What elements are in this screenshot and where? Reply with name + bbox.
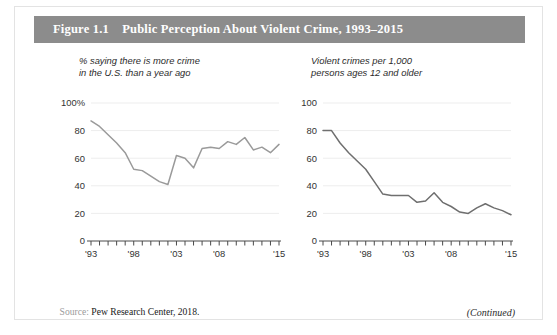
chart-right-plot-area: 020406080100'93'98'03'08'15	[287, 93, 519, 277]
y-tick-label: 100	[301, 97, 317, 108]
figure-header-title: Figure 1.1 Public Perception About Viole…	[34, 22, 403, 37]
y-tick-label: 0	[80, 235, 85, 246]
x-tick-label: '08	[445, 248, 457, 259]
x-tick-label: '93	[317, 248, 329, 259]
x-tick-label: '98	[360, 248, 372, 259]
y-tick-label: 40	[75, 180, 85, 191]
source-label: Source:	[60, 306, 89, 317]
y-tick-label: 100%	[61, 97, 85, 108]
data-line	[323, 131, 511, 215]
y-tick-label: 80	[75, 125, 85, 136]
x-tick-label: '15	[273, 248, 285, 259]
figure-header-bar: Figure 1.1 Public Perception About Viole…	[34, 16, 525, 43]
x-tick-label: '03	[170, 248, 182, 259]
x-tick-label: '03	[402, 248, 414, 259]
y-tick-label: 0	[312, 235, 317, 246]
figure-container: Figure 1.1 Public Perception About Viole…	[14, 6, 543, 320]
left-panel-svg: 020406080100%'93'98'03'08'15	[55, 93, 287, 277]
chart-right-subtitle: Violent crimes per 1,000 persons ages 12…	[311, 55, 422, 78]
x-tick-label: '98	[128, 248, 140, 259]
y-tick-label: 40	[307, 180, 317, 191]
y-tick-label: 60	[75, 153, 85, 164]
continued-note: (Continued)	[467, 307, 515, 318]
x-tick-label: '93	[85, 248, 97, 259]
x-tick-label: '15	[505, 248, 517, 259]
chart-panel-left: % saying there is more crime in the U.S.…	[55, 55, 287, 277]
y-tick-label: 60	[307, 153, 317, 164]
chart-left-subtitle: % saying there is more crime in the U.S.…	[79, 55, 200, 78]
y-tick-label: 20	[75, 208, 85, 219]
y-tick-label: 20	[307, 208, 317, 219]
y-tick-label: 80	[307, 125, 317, 136]
x-tick-label: '08	[213, 248, 225, 259]
chart-panel-right: Violent crimes per 1,000 persons ages 12…	[287, 55, 519, 277]
source-value: Pew Research Center, 2018.	[91, 306, 199, 317]
chart-left-plot-area: 020406080100%'93'98'03'08'15	[55, 93, 287, 277]
source-note: Source: Pew Research Center, 2018.	[50, 295, 199, 328]
right-panel-svg: 020406080100'93'98'03'08'15	[287, 93, 519, 277]
